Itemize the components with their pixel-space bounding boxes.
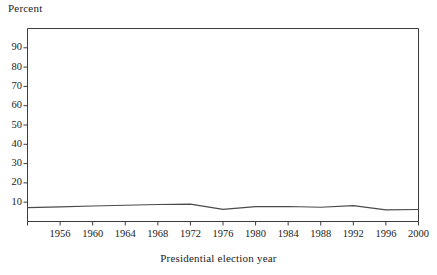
chart-figure: Percent 102030405060708090 1956196019641…	[0, 0, 437, 275]
x-tick-label: 1976	[206, 228, 240, 239]
y-tick-label: 10	[0, 197, 22, 207]
x-tick-label: 1992	[336, 228, 370, 239]
x-axis-ticks	[28, 222, 419, 226]
y-tick-label: 30	[0, 158, 22, 168]
y-tick-label: 90	[0, 42, 22, 52]
x-tick-label: 1960	[76, 228, 110, 239]
x-tick-label: 1968	[141, 228, 175, 239]
data-series-line	[28, 204, 419, 210]
y-tick-label: 50	[0, 120, 22, 130]
y-tick-label: 40	[0, 139, 22, 149]
y-tick-label: 70	[0, 81, 22, 91]
y-axis-label: Percent	[8, 2, 42, 14]
x-tick-label: 1984	[271, 228, 305, 239]
x-tick-label: 1996	[369, 228, 403, 239]
y-tick-label: 20	[0, 177, 22, 187]
axis-frame	[28, 29, 419, 222]
x-axis-title: Presidential election year	[0, 252, 437, 264]
x-tick-label: 1964	[108, 228, 142, 239]
x-tick-label: 1956	[43, 228, 77, 239]
y-tick-label: 60	[0, 100, 22, 110]
x-tick-label: 1988	[304, 228, 338, 239]
y-axis-ticks	[24, 48, 28, 202]
y-tick-label: 80	[0, 62, 22, 72]
x-tick-label: 2000	[402, 228, 436, 239]
x-tick-label: 1980	[239, 228, 273, 239]
x-tick-label: 1972	[173, 228, 207, 239]
